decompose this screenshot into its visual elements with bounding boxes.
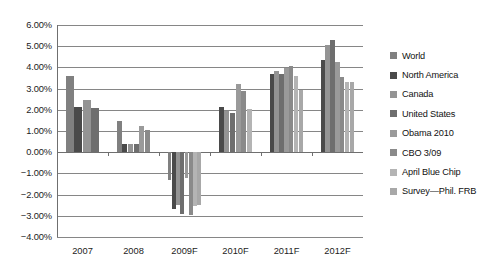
bar xyxy=(270,74,274,152)
y-axis-tick-label: 4.00% xyxy=(0,62,52,72)
legend-item-label: World xyxy=(402,51,425,61)
bar xyxy=(139,126,144,153)
bar xyxy=(83,100,91,152)
bar-group xyxy=(159,25,210,237)
y-axis-tick-label: 6.00% xyxy=(0,20,52,30)
bar xyxy=(197,152,201,205)
bar xyxy=(128,144,133,152)
legend-item-label: Canada xyxy=(402,89,433,99)
bar xyxy=(330,40,334,152)
legend-item-label: Survey—Phil. FRB xyxy=(402,186,476,196)
legend-swatch-icon xyxy=(390,188,397,195)
legend-swatch-icon xyxy=(390,149,397,156)
x-axis-tick-mark xyxy=(159,152,160,156)
y-axis-tick-label: 3.00% xyxy=(0,84,52,94)
bar xyxy=(145,130,150,152)
bar-group xyxy=(210,25,261,237)
legend-item[interactable]: United States xyxy=(390,104,490,123)
bar xyxy=(230,113,235,152)
bar xyxy=(74,107,82,153)
legend-item[interactable]: April Blue Chip xyxy=(390,162,490,181)
bar xyxy=(224,111,229,152)
bar xyxy=(289,66,293,152)
legend-item[interactable]: North America xyxy=(390,65,490,84)
bar xyxy=(168,152,172,180)
bar xyxy=(66,76,74,152)
bar-group xyxy=(108,25,159,237)
x-axis-tick-label: 2008 xyxy=(123,246,144,256)
bar xyxy=(340,77,344,152)
bar xyxy=(274,71,278,153)
bar-group xyxy=(312,25,363,237)
legend-item[interactable]: World xyxy=(390,46,490,65)
legend-item-label: CBO 3/09 xyxy=(402,148,441,158)
x-axis-tick-label: 2010F xyxy=(222,246,248,256)
legend-swatch-icon xyxy=(390,91,397,98)
bar xyxy=(241,91,246,152)
bar xyxy=(321,60,325,152)
legend-item[interactable]: Survey—Phil. FRB xyxy=(390,182,490,201)
bar xyxy=(236,84,241,152)
bar xyxy=(294,76,298,152)
x-axis-tick-label: 2011F xyxy=(274,246,300,256)
x-axis-tick-mark xyxy=(210,152,211,156)
plot-area xyxy=(57,25,363,237)
y-axis-tick-label: −3.00% xyxy=(0,211,52,221)
x-axis-tick-mark xyxy=(108,152,109,156)
legend-item[interactable]: CBO 3/09 xyxy=(390,143,490,162)
legend-item[interactable]: Obama 2010 xyxy=(390,124,490,143)
bar xyxy=(325,45,329,152)
legend-swatch-icon xyxy=(390,110,397,117)
legend-item-label: Obama 2010 xyxy=(402,128,454,138)
chart-root: 6.00%5.00%4.00%3.00%2.00%1.00%0.00%−1.00… xyxy=(0,0,491,268)
legend-item-label: April Blue Chip xyxy=(402,167,461,177)
legend-item-label: United States xyxy=(402,109,455,119)
legend-swatch-icon xyxy=(390,52,397,59)
bar xyxy=(134,144,139,152)
x-axis-tick-mark xyxy=(312,152,313,156)
x-axis-tick-mark xyxy=(261,152,262,156)
y-axis-tick-label: 2.00% xyxy=(0,105,52,115)
bar xyxy=(117,121,122,152)
y-axis-tick-label: −2.00% xyxy=(0,190,52,200)
y-axis-tick-label: −4.00% xyxy=(0,232,52,242)
y-axis-tick-label: 0.00% xyxy=(0,147,52,157)
x-axis-tick-label: 2009F xyxy=(171,246,197,256)
legend-item-label: North America xyxy=(402,70,458,80)
x-axis-tick-label: 2007 xyxy=(72,246,93,256)
bar xyxy=(247,109,252,152)
legend-swatch-icon xyxy=(390,72,397,79)
x-axis-labels: 200720082009F2010F2011F2012F xyxy=(57,240,363,256)
bar xyxy=(279,74,283,152)
legend-swatch-icon xyxy=(390,130,397,137)
y-axis-tick-label: −1.00% xyxy=(0,168,52,178)
legend-swatch-icon xyxy=(390,169,397,176)
bar-group xyxy=(57,25,108,237)
bar xyxy=(299,90,303,153)
bar xyxy=(335,62,339,152)
bar xyxy=(284,68,288,152)
legend-item[interactable]: Canada xyxy=(390,85,490,104)
y-axis-tick-label: 1.00% xyxy=(0,126,52,136)
bar xyxy=(219,107,224,153)
bar xyxy=(350,82,354,152)
gridline xyxy=(57,237,363,238)
bar xyxy=(91,108,99,153)
bar-group xyxy=(261,25,312,237)
legend: WorldNorth AmericaCanadaUnited StatesOba… xyxy=(390,46,490,201)
bar xyxy=(122,144,127,152)
bar xyxy=(345,82,349,152)
bar xyxy=(180,152,184,213)
x-axis-tick-label: 2012F xyxy=(324,246,350,256)
y-axis-labels: 6.00%5.00%4.00%3.00%2.00%1.00%0.00%−1.00… xyxy=(0,25,52,237)
y-axis-tick-label: 5.00% xyxy=(0,41,52,51)
